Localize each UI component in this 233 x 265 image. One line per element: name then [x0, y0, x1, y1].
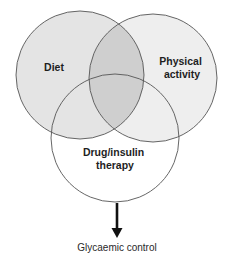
venn-diagram: Diet Physical activity Drug/insulin ther…	[0, 0, 233, 265]
diet-label: Diet	[44, 61, 64, 73]
glycaemic-control-label: Glycaemic control	[77, 242, 156, 253]
physical-activity-label: Physical activity	[159, 55, 205, 80]
down-arrow-icon	[112, 203, 123, 238]
